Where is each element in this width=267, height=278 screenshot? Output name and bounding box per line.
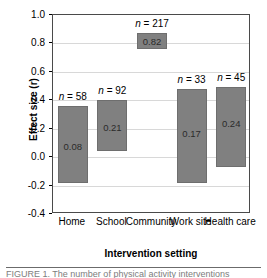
y-tick-label: -0.2 [28, 179, 45, 190]
bar-value-label: 0.17 [182, 127, 201, 138]
y-tick-label: 0.4 [31, 94, 45, 105]
x-axis-tick-labels: HomeSchoolCommunityWork siteHealth care [52, 216, 250, 244]
bar-n-label: n = 217 [135, 18, 169, 29]
y-axis-tick-labels: 1.00.80.60.40.20.0-0.2-0.4 [16, 14, 49, 213]
x-axis-label: Intervention setting [52, 248, 250, 259]
y-tick-label: 1.0 [31, 9, 45, 20]
x-tick-label-health-care: Health care [202, 216, 258, 228]
caption-cut-text: FIGURE 1. The number of physical activit… [6, 269, 261, 278]
bar-n-label: n = 33 [178, 74, 206, 85]
gridline [53, 186, 249, 187]
bar-value-label: 0.08 [64, 140, 83, 151]
bar-value-label: 0.82 [143, 35, 162, 46]
y-tick-label: 0.6 [31, 65, 45, 76]
bar-n-label: n = 45 [217, 72, 245, 83]
y-tick-label: -0.4 [28, 208, 45, 219]
y-tick-mark [49, 213, 52, 214]
bar-n-label: n = 92 [98, 85, 126, 96]
y-tick-label: 0.8 [31, 37, 45, 48]
y-tick-label: 0.2 [31, 122, 45, 133]
y-tick-label: 0.0 [31, 151, 45, 162]
bar-n-label: n = 58 [59, 91, 87, 102]
plot-area: 0.08n = 580.21n = 920.82n = 2170.17n = 3… [52, 14, 250, 213]
bar-value-label: 0.24 [222, 118, 241, 129]
caption-divider [6, 267, 261, 268]
figure-container: Effect size (r) 1.00.80.60.40.20.0-0.2-0… [0, 0, 267, 278]
bar-value-label: 0.21 [103, 122, 122, 133]
